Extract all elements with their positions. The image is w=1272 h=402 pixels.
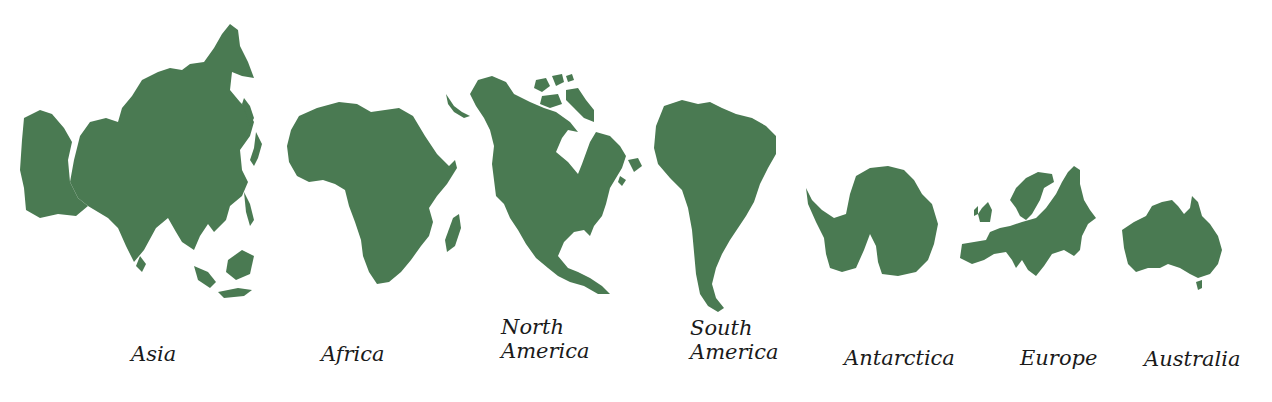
- asia-shape: [18, 10, 263, 300]
- africa-shape: [283, 96, 463, 288]
- north-america-shape: [444, 72, 644, 298]
- label-south-america: South America: [690, 316, 779, 364]
- antarctica-shape: [804, 164, 944, 278]
- europe-shape: [956, 164, 1100, 278]
- label-africa: Africa: [321, 342, 385, 366]
- australia-shape: [1120, 194, 1226, 292]
- label-europe: Europe: [1020, 346, 1097, 370]
- label-antarctica: Antarctica: [844, 346, 955, 370]
- label-australia: Australia: [1144, 347, 1240, 371]
- label-asia: Asia: [131, 342, 176, 366]
- continents-comparison-figure: Asia Africa North America South America …: [0, 0, 1272, 402]
- label-north-america: North America: [501, 315, 590, 363]
- south-america-shape: [652, 98, 782, 320]
